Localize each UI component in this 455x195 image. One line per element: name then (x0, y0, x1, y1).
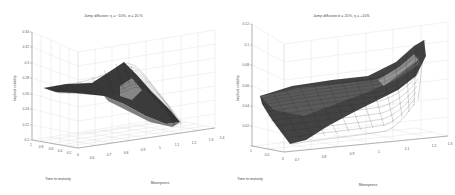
z-axis-label-left: Implied volatility (13, 75, 17, 101)
z-tick-label: 0.2 (24, 138, 29, 142)
y-tick-label: 0.6 (49, 147, 54, 151)
y-tick-label: 1 (30, 143, 32, 147)
x-axis-label-right: Moneyness (359, 183, 378, 187)
y-tick-label: 1 (250, 149, 252, 153)
surface-plot-right-svg: 0.12 0.1 0.08 0.06 0.04 0.02 1 0.5 0 0.7… (228, 0, 455, 195)
x-tick-label: 1.3 (448, 142, 453, 146)
z-tick-label: 0.22 (23, 123, 30, 127)
z-tick-label: 0.24 (23, 107, 30, 111)
x-tick-label: 0.6 (90, 156, 95, 160)
x-tick-label: 1.1 (175, 143, 180, 147)
x-tick-label: 0.9 (141, 148, 146, 152)
x-tick-label: 1.1 (405, 147, 410, 151)
y-tick-label: 0.4 (58, 149, 63, 153)
x-tick-label: 1.2 (192, 141, 197, 145)
x-tick-label: 1.4 (220, 136, 225, 140)
x-tick-label: 0.7 (107, 153, 112, 157)
figure-canvas: Jump diffusion: η = −10%, σ = 20 % (0, 0, 455, 195)
chart-panel-right: Jump diffusion:σ = 20%, η = +10% (228, 0, 455, 195)
z-tick-label: 0.26 (23, 92, 30, 96)
y-tick-label: 0.5 (265, 153, 270, 157)
z-tick-label: 0.28 (23, 76, 30, 80)
z-tick-label: 0.02 (243, 124, 250, 128)
surface-plot-left-svg: 0.34 0.32 0.3 0.28 0.26 0.24 0.22 0.2 1 … (0, 0, 227, 195)
z-tick-label: 0.06 (243, 84, 250, 88)
z-axis-ticks-left: 0.34 0.32 0.3 0.28 0.26 0.24 0.22 0.2 (23, 30, 32, 142)
x-tick-label: 0.8 (322, 155, 327, 159)
y-axis-label-left: Time to maturity (45, 177, 71, 181)
y-tick-label: 0 (77, 153, 79, 157)
x-tick-label: 1 (378, 150, 380, 154)
y-tick-label: 0.8 (39, 145, 44, 149)
chart-panel-left: Jump diffusion: η = −10%, σ = 20 % (0, 0, 227, 195)
x-tick-label: 1.2 (432, 144, 437, 148)
plot-area-left: 0.34 0.32 0.3 0.28 0.26 0.24 0.22 0.2 1 … (0, 0, 227, 195)
z-tick-label: 0.34 (23, 30, 30, 34)
x-tick-label: 1 (159, 146, 161, 150)
x-tick-label: 1.3 (209, 138, 214, 142)
y-tick-label: 0 (282, 157, 284, 161)
z-tick-label: 0.12 (243, 22, 250, 26)
x-tick-label: 0.9 (350, 152, 355, 156)
x-tick-label: 0.8 (124, 151, 129, 155)
z-tick-label: 0.32 (23, 45, 30, 49)
y-axis-label-right: Time to maturity (237, 177, 263, 181)
plot-area-right: 0.12 0.1 0.08 0.06 0.04 0.02 1 0.5 0 0.7… (228, 0, 455, 195)
z-tick-label: 0.08 (243, 63, 250, 67)
z-tick-label: 0.04 (243, 104, 250, 108)
y-tick-label: 0.2 (67, 151, 72, 155)
x-tick-label: 0.7 (295, 158, 300, 162)
x-axis-label-left: Moneyness (151, 181, 170, 185)
z-tick-label: 0.1 (244, 43, 249, 47)
z-axis-label-right: Implied volatility (236, 75, 240, 101)
z-tick-label: 0.3 (24, 61, 29, 65)
z-axis-ticks-right: 0.12 0.1 0.08 0.06 0.04 0.02 (243, 22, 252, 146)
